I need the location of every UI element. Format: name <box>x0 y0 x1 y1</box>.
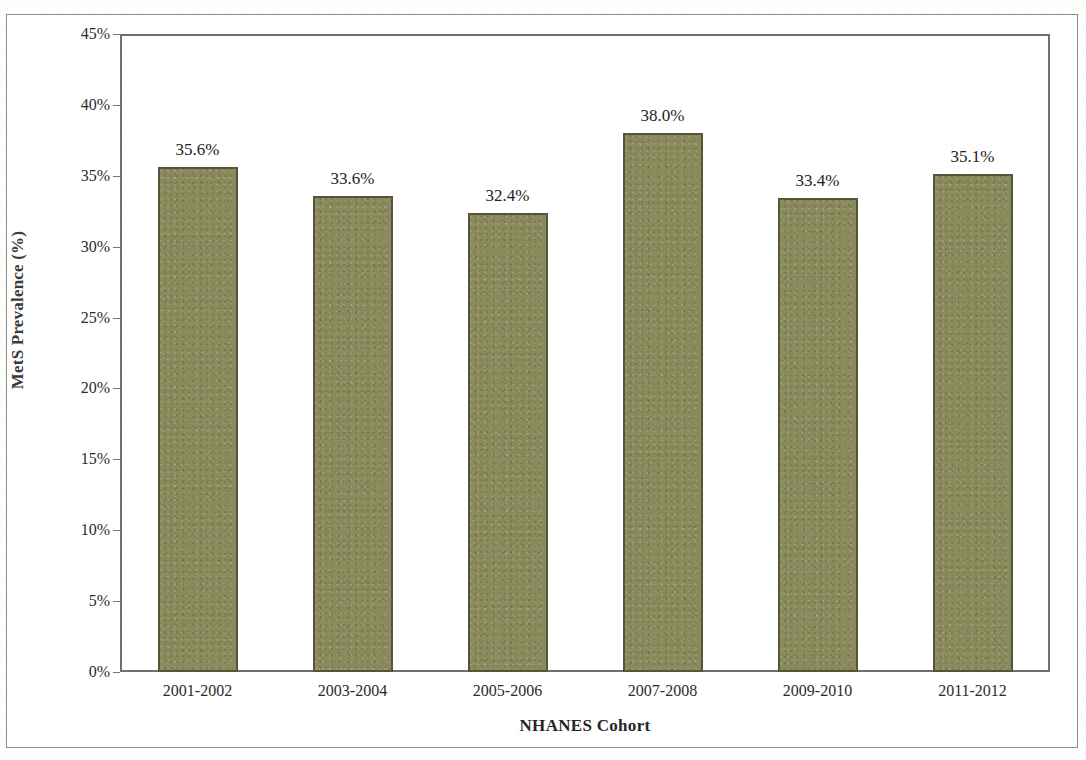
y-axis-title: MetS Prevalence (%) <box>8 0 28 630</box>
x-axis-tick-label: 2009-2010 <box>783 682 852 700</box>
y-axis-tick-label: 45% <box>40 25 110 43</box>
bar-group[interactable]: 35.1% <box>933 174 1013 672</box>
x-axis-tick-label: 2001-2002 <box>163 682 232 700</box>
y-axis-tick-label: 0% <box>40 663 110 681</box>
y-axis-tick-mark <box>113 247 120 248</box>
y-axis-tick-mark <box>113 459 120 460</box>
bar-group[interactable]: 33.6% <box>313 196 393 672</box>
bar-rect[interactable] <box>933 174 1013 672</box>
y-axis-tick-label: 40% <box>40 96 110 114</box>
chart-page: MetS Prevalence (%) 0%5%10%15%20%25%30%3… <box>0 0 1086 760</box>
bar-group[interactable]: 33.4% <box>778 198 858 672</box>
bar-rect[interactable] <box>778 198 858 672</box>
bar-rect[interactable] <box>158 167 238 672</box>
x-axis-tick-label: 2005-2006 <box>473 682 542 700</box>
bar-rect[interactable] <box>468 213 548 672</box>
bar-group[interactable]: 32.4% <box>468 213 548 672</box>
y-axis-tick-mark <box>113 601 120 602</box>
y-axis-tick-label: 25% <box>40 309 110 327</box>
bar-rect[interactable] <box>623 133 703 672</box>
y-axis-tick-label: 15% <box>40 450 110 468</box>
x-axis-tick-label: 2011-2012 <box>938 682 1007 700</box>
y-axis-tick-mark <box>113 176 120 177</box>
y-axis-tick-mark <box>113 530 120 531</box>
bar-value-label: 33.6% <box>331 169 375 189</box>
y-axis-tick-label: 35% <box>40 167 110 185</box>
bar-group[interactable]: 35.6% <box>158 167 238 672</box>
y-axis-tick-label: 30% <box>40 238 110 256</box>
bar-value-label: 35.1% <box>951 147 995 167</box>
bar-value-label: 35.6% <box>176 140 220 160</box>
y-axis-tick-mark <box>113 318 120 319</box>
bar-value-label: 32.4% <box>486 186 530 206</box>
bar-group[interactable]: 38.0% <box>623 133 703 672</box>
y-axis-tick-mark <box>113 105 120 106</box>
y-axis-tick-mark <box>113 34 120 35</box>
x-axis-tick-label: 2003-2004 <box>318 682 387 700</box>
x-axis-title: NHANES Cohort <box>120 716 1050 736</box>
bar-value-label: 33.4% <box>796 171 840 191</box>
bar-value-label: 38.0% <box>641 106 685 126</box>
y-axis-tick-mark <box>113 388 120 389</box>
y-axis-tick-label: 20% <box>40 379 110 397</box>
bar-rect[interactable] <box>313 196 393 672</box>
y-axis-tick-mark <box>113 672 120 673</box>
y-axis-tick-label: 5% <box>40 592 110 610</box>
plot-area-frame <box>120 34 1050 672</box>
y-axis-tick-label: 10% <box>40 521 110 539</box>
plot-inner-area <box>122 36 1048 670</box>
x-axis-tick-label: 2007-2008 <box>628 682 697 700</box>
